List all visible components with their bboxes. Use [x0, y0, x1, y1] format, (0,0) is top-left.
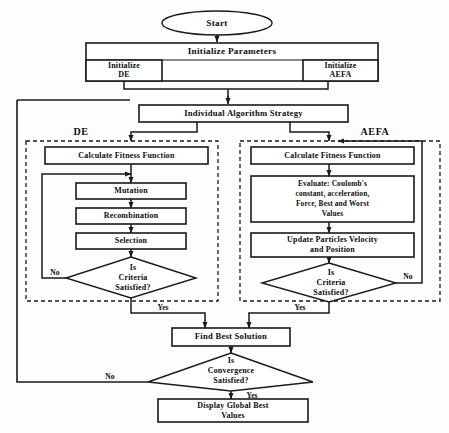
display-global-label-line2: Values: [221, 411, 245, 420]
aefa-yes-edge-label: Yes: [295, 303, 306, 312]
initialize-de-label-line1: Initialize: [108, 61, 140, 70]
aefa-criteria-label-line2: Criteria: [316, 278, 345, 287]
update-particles-label-line2: and Position: [310, 245, 355, 254]
aefa-criteria-label-line1: Is: [328, 268, 335, 277]
start-label: Start: [206, 18, 228, 28]
evaluate-label-line2: constant, acceleration,: [296, 189, 370, 198]
de-group-title: DE: [73, 126, 88, 137]
aefa-criteria-label-line3: Satisfied?: [313, 288, 348, 297]
display-global-label-line1: Display Global Best: [197, 401, 269, 410]
find-best-solution-label: Find Best Solution: [195, 331, 267, 341]
convergence-label-line3: Satisfied?: [213, 376, 248, 385]
aefa-group-title: AEFA: [361, 126, 390, 137]
initialize-aefa-label-line1: Initialize: [324, 61, 356, 70]
mutation-label: Mutation: [114, 186, 148, 195]
de-calculate-fitness-label: Calculate Fitness Function: [78, 151, 175, 160]
individual-algorithm-strategy-label: Individual Algorithm Strategy: [184, 108, 303, 118]
selection-label: Selection: [115, 236, 148, 245]
initialize-parameters-label: Initialize Parameters: [188, 46, 277, 56]
de-yes-edge-label: Yes: [158, 303, 169, 312]
convergence-no-edge-label: No: [105, 372, 114, 381]
edge-aefa-yes-to-best: [249, 302, 329, 328]
edge-strategy-to-aefa: [290, 122, 329, 141]
evaluate-label-line4: Values: [322, 209, 344, 218]
aefa-calculate-fitness-label: Calculate Fitness Function: [284, 151, 381, 160]
flowchart-svg: Start Initialize Parameters Initialize D…: [0, 0, 449, 433]
aefa-no-edge-label: No: [403, 272, 412, 281]
recombination-label: Recombination: [104, 211, 159, 220]
de-criteria-label-line3: Satisfied?: [115, 283, 150, 292]
convergence-label-line1: Is: [228, 356, 235, 365]
evaluate-label-line3: Force, Best and Worst: [296, 199, 369, 208]
de-criteria-label-line1: Is: [130, 263, 137, 272]
initialize-de-label-line2: DE: [118, 70, 130, 79]
flowchart-canvas: Start Initialize Parameters Initialize D…: [0, 0, 449, 433]
update-particles-label-line1: Update Particles Velocity: [287, 235, 378, 244]
evaluate-label-line1: Evaluate: Coulomb's: [298, 179, 367, 188]
de-criteria-label-line2: Criteria: [118, 273, 147, 282]
edge-init-branches-merge: [124, 81, 328, 89]
convergence-label-line2: Convergence: [208, 366, 255, 375]
edge-strategy-to-de: [131, 122, 197, 141]
initialize-aefa-label-line2: AEFA: [330, 70, 352, 79]
de-no-edge-label: No: [50, 268, 59, 277]
